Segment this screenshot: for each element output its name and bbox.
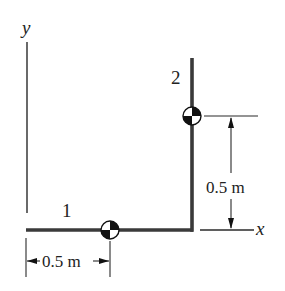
vertical-dimension: 0.5 m: [204, 116, 258, 229]
center-of-mass-icon-bar-2: [183, 107, 201, 125]
two-bar-diagram: y 1 2 x 0.5 m 0.5 m: [0, 0, 285, 291]
horizontal-dimension: 0.5 m: [26, 238, 110, 277]
x-axis-label: x: [255, 218, 265, 239]
bar-1-label: 1: [62, 200, 72, 221]
bar-2-label: 2: [171, 67, 181, 88]
arrowhead-down-icon: [228, 218, 234, 229]
vertical-dimension-label: 0.5 m: [206, 178, 245, 197]
arrowhead-left-icon: [27, 258, 37, 264]
arrowhead-right-icon: [99, 258, 109, 264]
horizontal-dimension-label: 0.5 m: [42, 252, 81, 271]
arrowhead-up-icon: [228, 117, 234, 128]
y-axis-label: y: [20, 17, 31, 38]
center-of-mass-icon-bar-1: [101, 221, 119, 239]
